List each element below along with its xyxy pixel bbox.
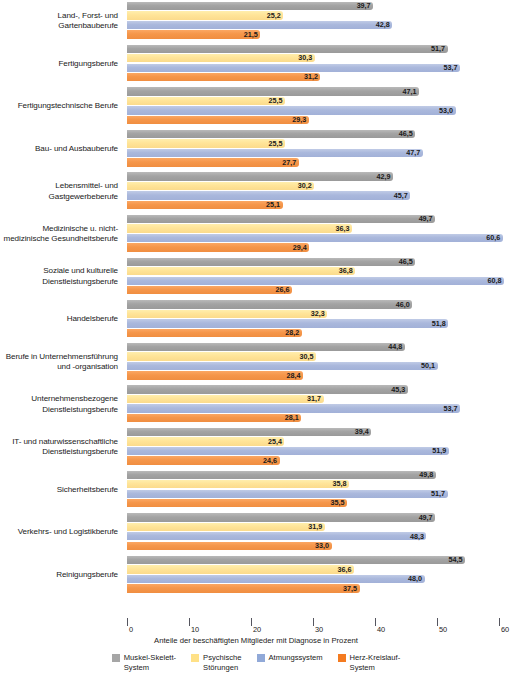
bar-group: Land-, Forst- undGartenbauberufe39,725,2… [0,0,512,43]
bar[interactable] [127,319,448,327]
legend-item[interactable]: Muskel-Skelett- System [112,653,176,673]
bar[interactable] [127,480,349,488]
category-label: UnternehmensbezogeneDienstleistungsberuf… [0,383,120,426]
bar-group: Soziale und kulturelleDienstleistungsber… [0,256,512,299]
bar-row: 49,7 [127,513,512,521]
legend-label: Psychische Störungen [203,653,241,673]
bar-row: 46,5 [127,130,512,138]
bar[interactable] [127,201,283,209]
bar[interactable] [127,343,405,351]
bar[interactable] [127,300,412,308]
bar-value-label: 28,4 [287,371,304,380]
bar[interactable] [127,258,415,266]
chart-legend: Muskel-Skelett- SystemPsychische Störung… [0,653,512,673]
bar[interactable] [127,532,426,540]
bar[interactable] [127,224,352,232]
bar-stack: 44,830,550,128,4 [127,343,512,381]
bar[interactable] [127,286,292,294]
bar[interactable] [127,139,285,147]
bar[interactable] [127,404,460,412]
bar[interactable] [127,371,303,379]
bar-value-label: 29,3 [292,115,309,124]
bar-value-label: 27,7 [282,158,299,167]
bar-value-label: 36,8 [339,266,356,275]
legend-label: Herz-Kreislauf- System [350,653,401,673]
bar[interactable] [127,149,423,157]
bar-value-label: 26,6 [275,285,292,294]
bar[interactable] [127,130,415,138]
bar[interactable] [127,565,354,573]
bar[interactable] [127,513,435,521]
bar[interactable] [127,542,332,550]
legend-item[interactable]: Atmungssystem [257,653,323,673]
bar-row: 26,6 [127,286,512,294]
bar[interactable] [127,106,456,114]
bar[interactable] [127,87,419,95]
bar-row: 51,7 [127,45,512,53]
bar[interactable] [127,73,320,81]
bar-row: 39,7 [127,2,512,10]
bar[interactable] [127,395,324,403]
legend-item[interactable]: Psychische Störungen [191,653,241,673]
bar[interactable] [127,277,504,285]
bar[interactable] [127,575,425,583]
bar[interactable] [127,362,438,370]
bar[interactable] [127,352,316,360]
bar-stack: 39,425,451,924,6 [127,428,512,466]
bar-row: 36,6 [127,565,512,573]
bar[interactable] [127,158,299,166]
bar-value-label: 39,7 [357,1,374,10]
bar[interactable] [127,30,260,38]
bar-row: 28,4 [127,371,512,379]
legend-item[interactable]: Herz-Kreislauf- System [338,653,401,673]
bar-value-label: 25,1 [266,200,283,209]
bar[interactable] [127,414,301,422]
bar[interactable] [127,556,465,564]
bar[interactable] [127,329,302,337]
chart-page: Land-, Forst- undGartenbauberufe39,725,2… [0,0,512,689]
bar[interactable] [127,447,449,455]
bar-row: 36,8 [127,267,512,275]
bar-group: Fertigungstechnische Berufe47,125,553,02… [0,85,512,128]
bar[interactable] [127,584,360,592]
bar-group: UnternehmensbezogeneDienstleistungsberuf… [0,383,512,426]
bar[interactable] [127,523,325,531]
bar[interactable] [127,64,460,72]
bar[interactable] [127,215,435,223]
bar[interactable] [127,45,448,53]
bar[interactable] [127,471,436,479]
bar[interactable] [127,385,408,393]
bar[interactable] [127,456,280,464]
bar-row: 51,9 [127,447,512,455]
bar-value-label: 33,0 [315,541,332,550]
bar[interactable] [127,191,410,199]
bar-row: 45,7 [127,191,512,199]
bar[interactable] [127,172,393,180]
bar[interactable] [127,310,327,318]
bar[interactable] [127,234,503,242]
bar-value-label: 46,0 [396,300,413,309]
bar[interactable] [127,2,373,10]
bar[interactable] [127,490,448,498]
bar[interactable] [127,243,309,251]
bar[interactable] [127,428,371,436]
bar[interactable] [127,21,392,29]
bar-row: 53,7 [127,64,512,72]
bar[interactable] [127,437,284,445]
category-label: Land-, Forst- undGartenbauberufe [0,0,120,43]
bar[interactable] [127,97,285,105]
bar-row: 47,1 [127,87,512,95]
bar[interactable] [127,267,355,275]
bar-row: 35,8 [127,480,512,488]
bar[interactable] [127,11,283,19]
bar[interactable] [127,54,315,62]
bar[interactable] [127,182,314,190]
bar[interactable] [127,499,347,507]
bar-value-label: 35,5 [331,498,348,507]
bar[interactable] [127,116,309,124]
bar-value-label: 42,8 [376,20,393,29]
category-label: Verkehrs- und Logistikberufe [0,511,120,554]
bar-value-label: 51,7 [431,44,448,53]
bar-row: 28,2 [127,329,512,337]
category-label: Handelsberufe [0,298,120,341]
